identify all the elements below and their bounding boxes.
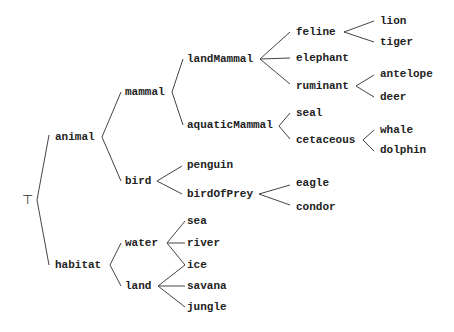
node-sea: sea bbox=[187, 215, 207, 227]
tree-edge bbox=[260, 58, 290, 59]
node-deer: deer bbox=[380, 91, 406, 103]
node-feline: feline bbox=[296, 26, 336, 38]
node-condor: condor bbox=[296, 201, 336, 213]
node-land: land bbox=[125, 280, 151, 292]
tree-edge bbox=[172, 59, 183, 92]
tree-edge bbox=[102, 137, 121, 181]
tree-edge bbox=[344, 21, 374, 32]
node-aquaticMammal: aquaticMammal bbox=[187, 119, 273, 131]
node-lion: lion bbox=[380, 15, 406, 27]
node-seal: seal bbox=[296, 107, 322, 119]
tree-edge bbox=[167, 243, 185, 265]
tree-edge bbox=[259, 185, 290, 194]
tree-edge bbox=[356, 75, 374, 86]
node-bird: bird bbox=[125, 175, 151, 187]
tree-edge bbox=[37, 135, 49, 200]
node-ice: ice bbox=[187, 259, 207, 271]
node-savana: savana bbox=[187, 280, 227, 292]
tree-edge bbox=[279, 113, 290, 126]
tree-edge bbox=[363, 130, 374, 140]
node-eagle: eagle bbox=[296, 177, 329, 189]
tree-edge bbox=[102, 92, 121, 137]
node-river: river bbox=[187, 237, 220, 249]
taxonomy-tree-diagram: ⊤animalhabitatmammalbirdlandMammalaquati… bbox=[0, 0, 454, 332]
node-tiger: tiger bbox=[380, 36, 413, 48]
tree-edge bbox=[172, 92, 183, 125]
tree-edge bbox=[110, 243, 121, 265]
tree-edge bbox=[37, 200, 49, 265]
node-elephant: elephant bbox=[296, 52, 349, 64]
node-habitat: habitat bbox=[55, 259, 101, 271]
tree-edge bbox=[158, 286, 185, 307]
tree-edge bbox=[259, 194, 290, 205]
tree-edge bbox=[356, 86, 374, 97]
node-top: ⊤ bbox=[22, 194, 33, 206]
tree-edge bbox=[279, 126, 290, 139]
node-antelope: antelope bbox=[380, 68, 433, 80]
tree-edge bbox=[260, 59, 290, 84]
tree-edge bbox=[167, 221, 185, 243]
node-birdOfPrey: birdOfPrey bbox=[187, 188, 253, 200]
tree-edge bbox=[260, 32, 290, 59]
node-mammal: mammal bbox=[125, 86, 165, 98]
tree-edge bbox=[344, 32, 374, 42]
node-penguin: penguin bbox=[187, 159, 233, 171]
tree-edge bbox=[110, 265, 121, 286]
node-cetaceous: cetaceous bbox=[296, 134, 355, 146]
node-water: water bbox=[125, 237, 158, 249]
tree-edge bbox=[363, 140, 374, 151]
node-dolphin: dolphin bbox=[380, 144, 426, 156]
node-ruminant: ruminant bbox=[296, 80, 349, 92]
tree-edge bbox=[157, 181, 182, 194]
node-whale: whale bbox=[380, 124, 413, 136]
node-landMammal: landMammal bbox=[187, 53, 253, 65]
node-jungle: jungle bbox=[187, 301, 227, 313]
tree-edge bbox=[157, 166, 182, 181]
tree-edge bbox=[158, 265, 185, 286]
node-animal: animal bbox=[55, 131, 95, 143]
